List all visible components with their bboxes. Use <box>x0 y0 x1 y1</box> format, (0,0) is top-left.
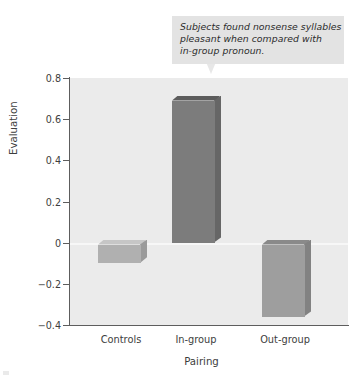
x-axis-line <box>69 325 349 326</box>
y-tick-label-2: 0.4 <box>3 155 61 166</box>
bar-outgroup[interactable] <box>262 245 310 317</box>
y-tick-mark-3 <box>63 202 69 203</box>
y-tick-mark-4 <box>63 243 69 244</box>
callout-line-2: pleasant when compared with <box>180 33 337 45</box>
y-tick-label-5: −0.2 <box>3 278 61 289</box>
y-tick-label-4: 0 <box>3 237 61 248</box>
bar-ingroup-front-face <box>172 101 215 243</box>
y-tick-label-6: −0.4 <box>3 320 61 331</box>
y-tick-mark-2 <box>63 160 69 161</box>
x-tick-label-ingroup: In-group <box>175 334 216 345</box>
callout-annotation: Subjects found nonsense syllables pleasa… <box>172 16 344 64</box>
plot-area <box>70 78 348 325</box>
bar-chart-figure: Subjects found nonsense syllables pleasa… <box>0 0 363 381</box>
callout-pointer-tail <box>206 62 216 74</box>
callout-line-3: in-group pronoun. <box>180 45 337 57</box>
bar-ingroup[interactable] <box>172 101 220 243</box>
x-axis-title: Pairing <box>0 356 363 367</box>
x-tick-label-outgroup: Out-group <box>260 334 310 345</box>
y-tick-mark-6 <box>63 325 69 326</box>
y-axis-line <box>69 77 70 326</box>
y-tick-label-group: 0.8 0.6 0.4 0.2 0 −0.2 −0.4 <box>0 0 61 381</box>
y-tick-label-3: 0.2 <box>3 196 61 207</box>
bar-controls-front-face <box>98 245 141 264</box>
y-tick-label-0: 0.8 <box>3 73 61 84</box>
bar-outgroup-front-face <box>262 245 305 317</box>
y-tick-mark-1 <box>63 119 69 120</box>
bar-outgroup-side-face <box>304 240 311 317</box>
bar-ingroup-side-face <box>214 96 221 243</box>
y-axis-title: Evaluation <box>8 101 19 155</box>
x-axis-title-text: Pairing <box>184 356 219 367</box>
x-tick-label-controls: Controls <box>101 334 142 345</box>
bar-controls[interactable] <box>98 245 146 264</box>
y-tick-mark-0 <box>63 78 69 79</box>
page-edge-artifact <box>3 371 9 375</box>
callout-line-1: Subjects found nonsense syllables <box>180 21 337 33</box>
y-tick-mark-5 <box>63 284 69 285</box>
